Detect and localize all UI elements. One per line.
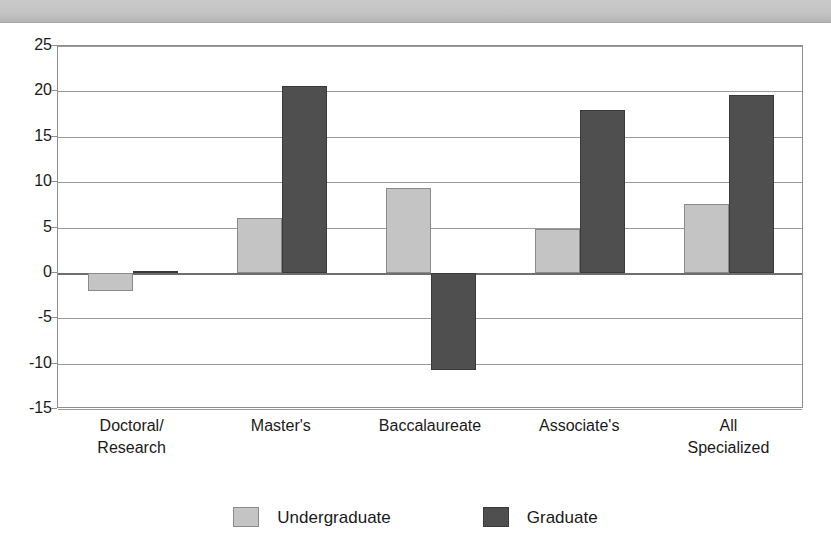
x-axis-labels: Doctoral/ ResearchMaster'sBaccalaureateA… [57, 415, 803, 475]
gridline [58, 409, 802, 410]
legend-label: Graduate [527, 509, 598, 526]
legend-item: Undergraduate [233, 507, 390, 527]
gridline [58, 364, 802, 365]
gridline [58, 182, 802, 183]
legend-swatch-icon [233, 507, 259, 527]
legend-label: Undergraduate [277, 509, 390, 526]
bar-undergraduate [237, 218, 282, 272]
gridline [58, 46, 802, 47]
bar-graduate [282, 86, 327, 273]
y-axis-tick-mark [51, 408, 57, 409]
gridline [58, 318, 802, 319]
bar-undergraduate [88, 273, 133, 291]
gridline [58, 137, 802, 138]
bar-chart-figure: -15-10-50510152025 Doctoral/ ResearchMas… [0, 23, 831, 550]
gridline [58, 91, 802, 92]
x-axis-tick-label: All Specialized [638, 415, 818, 459]
gridline [58, 273, 802, 275]
bar-undergraduate [535, 229, 580, 273]
bar-graduate [580, 110, 625, 272]
bar-graduate [133, 271, 178, 273]
y-axis-tick-marks [0, 45, 57, 408]
bar-undergraduate [386, 188, 431, 272]
legend-swatch-icon [483, 507, 509, 527]
bar-undergraduate [684, 204, 729, 273]
bar-graduate [729, 95, 774, 273]
header-band [0, 0, 831, 23]
plot-area [57, 45, 803, 408]
legend-item: Graduate [483, 507, 598, 527]
bar-graduate [431, 273, 476, 370]
chart-legend: UndergraduateGraduate [0, 497, 831, 537]
